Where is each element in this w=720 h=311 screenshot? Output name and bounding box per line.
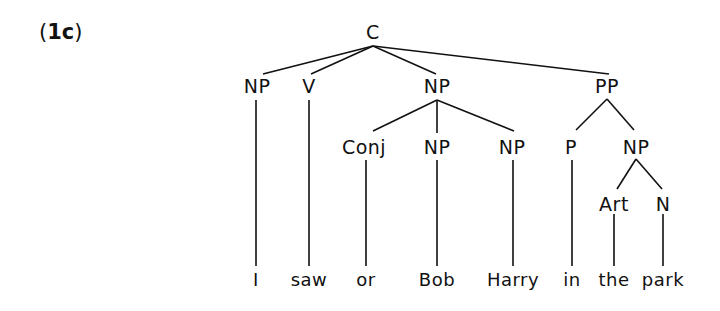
tree-node-np-park: NP: [623, 137, 650, 157]
tree-node-p: P: [565, 137, 577, 157]
tree-node-np-object: NP: [424, 76, 451, 96]
tree-node-pp: PP: [595, 76, 619, 96]
leaf-word: Harry: [487, 270, 539, 290]
leaf-word: in: [563, 270, 580, 290]
tree-edge: [437, 100, 514, 131]
tree-node-root: C: [366, 22, 380, 42]
leaf-word: or: [356, 270, 375, 290]
tree-edge: [636, 159, 662, 189]
tree-edge: [617, 159, 636, 189]
leaf-word: saw: [291, 270, 328, 290]
tree-edge: [373, 100, 437, 131]
tree-edge: [373, 46, 609, 74]
leaf-word: the: [598, 270, 629, 290]
tree-edge: [263, 46, 373, 74]
tree-node-conj: Conj: [342, 137, 386, 157]
tree-node-np-subject: NP: [244, 76, 271, 96]
tree-node-v: V: [302, 76, 316, 96]
leaf-word: Bob: [419, 270, 455, 290]
tree-node-n: N: [656, 194, 671, 214]
tree-node-np-harry: NP: [499, 137, 526, 157]
leaf-word: I: [253, 270, 259, 290]
tree-node-np-bob: NP: [424, 137, 451, 157]
tree-edge: [607, 99, 634, 130]
tree-node-art: Art: [599, 194, 629, 214]
tree-edge: [576, 99, 607, 130]
leaf-word: park: [642, 270, 684, 290]
